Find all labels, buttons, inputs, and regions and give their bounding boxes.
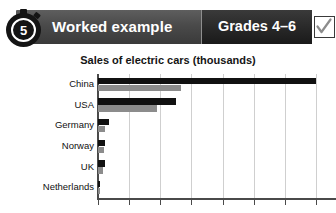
bar <box>98 181 100 187</box>
gridline <box>160 74 161 198</box>
x-axis-tick <box>98 198 99 205</box>
category-axis-labels: ChinaUSAGermanyNorwayUKNetherlands <box>0 74 94 198</box>
category-label: Germany <box>55 119 94 130</box>
bar <box>98 98 176 104</box>
category-label: China <box>69 78 94 89</box>
worked-example-card: 5 Worked example Grades 4–6 Sales of ele… <box>0 0 336 213</box>
bar <box>98 119 109 125</box>
card-header: 5 Worked example Grades 4–6 <box>0 8 336 48</box>
header-title: Worked example <box>52 18 172 35</box>
x-axis-tick <box>191 198 192 205</box>
completion-checkbox[interactable] <box>314 16 335 38</box>
bar <box>98 167 103 173</box>
bar <box>98 126 105 132</box>
chart-title: Sales of electric cars (thousands) <box>0 54 336 66</box>
grades-label: Grades 4–6 <box>202 18 312 34</box>
x-axis-tick <box>160 198 161 205</box>
category-label: UK <box>81 161 94 172</box>
x-axis-tick <box>316 198 317 205</box>
bar-chart: Sales of electric cars (thousands) China… <box>0 48 336 213</box>
gridline <box>223 74 224 198</box>
gridline <box>316 74 317 198</box>
category-label: Netherlands <box>43 181 94 192</box>
x-axis <box>97 198 336 200</box>
stopwatch-icon: 5 <box>4 8 44 48</box>
bar <box>98 188 100 194</box>
category-label: Norway <box>62 140 94 151</box>
x-axis-tick <box>285 198 286 205</box>
gridline <box>129 74 130 198</box>
x-axis-tick <box>129 198 130 205</box>
bar <box>98 160 105 166</box>
bar <box>98 78 316 84</box>
gridline <box>285 74 286 198</box>
bar <box>98 85 181 91</box>
check-icon <box>315 17 333 36</box>
bar <box>98 147 104 153</box>
step-number: 5 <box>11 18 36 42</box>
bar <box>98 140 105 146</box>
x-axis-tick <box>223 198 224 205</box>
x-axis-tick <box>254 198 255 205</box>
category-label: USA <box>74 99 94 110</box>
bar <box>98 105 157 111</box>
plot-area <box>98 74 316 198</box>
gridline <box>191 74 192 198</box>
gridline <box>254 74 255 198</box>
